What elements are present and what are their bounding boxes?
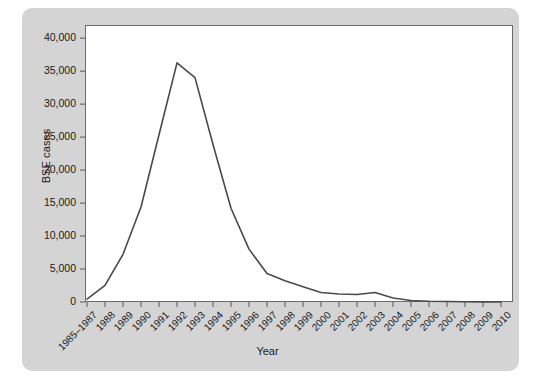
bse-cases-line	[87, 63, 501, 302]
x-axis-ticks	[87, 302, 501, 307]
y-axis-ticks	[80, 38, 85, 302]
chart-svg	[0, 0, 535, 384]
figure-container: BSE cases Year 05,00010,00015,00020,0002…	[0, 0, 535, 384]
